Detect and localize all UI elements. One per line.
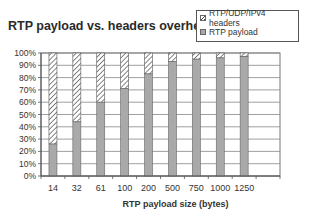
header-segment [216, 53, 224, 58]
payload-segment [121, 89, 129, 176]
y-tick-label: 10% [19, 159, 36, 169]
bar-200 [145, 53, 153, 176]
payload-segment [49, 144, 57, 176]
x-tick-label: 200 [141, 183, 156, 193]
bar-1250 [240, 53, 248, 176]
x-tick-label: 750 [189, 183, 204, 193]
bar-14 [49, 53, 57, 176]
stacked-bar-chart: 0%10%20%30%40%50%60%70%80%90%100%1432611… [0, 0, 311, 220]
payload-segment [73, 122, 81, 176]
x-tick-label: 100 [117, 183, 132, 193]
x-tick-label: 1250 [234, 183, 254, 193]
y-tick-label: 50% [19, 110, 36, 120]
y-tick-label: 40% [19, 122, 36, 132]
bar-750 [192, 53, 200, 176]
header-segment [168, 53, 176, 62]
bar-1000 [216, 53, 224, 176]
y-tick-label: 90% [19, 60, 36, 70]
header-segment [73, 53, 81, 122]
payload-segment [145, 74, 153, 176]
x-tick-label: 14 [48, 183, 58, 193]
y-tick-label: 80% [19, 73, 36, 83]
y-tick-label: 60% [19, 97, 36, 107]
header-segment [121, 53, 129, 89]
x-tick-label: 500 [165, 183, 180, 193]
payload-segment [97, 102, 105, 176]
y-tick-label: 100% [14, 48, 36, 58]
bar-500 [168, 53, 176, 176]
header-segment [49, 53, 57, 144]
bar-100 [121, 53, 129, 176]
y-tick-label: 20% [19, 146, 36, 156]
x-tick-label: 1000 [210, 183, 230, 193]
x-tick-label: 32 [72, 183, 82, 193]
payload-segment [168, 62, 176, 176]
x-axis-label: RTP payload size (bytes) [0, 199, 311, 209]
header-segment [145, 53, 153, 74]
bars [49, 53, 248, 176]
payload-segment [192, 59, 200, 176]
payload-segment [216, 58, 224, 176]
header-segment [192, 53, 200, 59]
payload-segment [240, 57, 248, 176]
bar-32 [73, 53, 81, 176]
header-segment [97, 53, 105, 102]
y-tick-label: 30% [19, 134, 36, 144]
x-tick-label: 61 [96, 183, 106, 193]
y-tick-label: 0% [24, 171, 37, 181]
bar-61 [97, 53, 105, 176]
header-segment [240, 53, 248, 57]
y-tick-label: 70% [19, 85, 36, 95]
